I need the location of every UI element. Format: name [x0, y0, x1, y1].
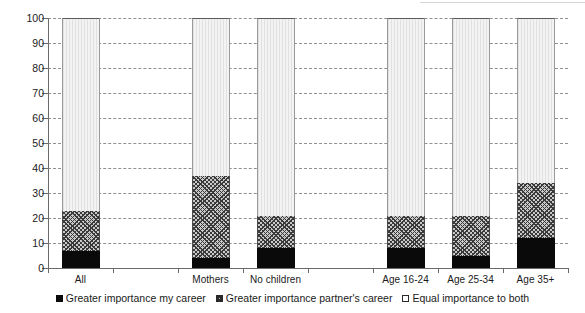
bar-segment-1: [387, 216, 425, 249]
x-axis-category-label: Age 16-24: [373, 274, 438, 285]
bar-segment-1: [257, 216, 295, 249]
x-axis-tick: [48, 268, 49, 273]
y-axis-tick-label: 30: [4, 188, 44, 198]
table-row: [387, 18, 425, 268]
x-axis-tick: [178, 268, 179, 273]
table-row: [452, 18, 490, 268]
bar-segment-1: [452, 216, 490, 256]
y-axis-tick-label: 70: [4, 88, 44, 98]
legend-swatch-icon: [56, 295, 63, 302]
legend-item: Greater importance my career: [56, 292, 206, 304]
y-axis-tick-label: 80: [4, 63, 44, 73]
gridline: [48, 93, 568, 94]
y-axis-tick-label: 10: [4, 238, 44, 248]
bar-segment-2: [452, 18, 490, 216]
legend-label: Equal importance to both: [412, 292, 529, 304]
bar-segment-1: [517, 183, 555, 238]
table-row: [257, 18, 295, 268]
gridline: [48, 168, 568, 169]
x-axis-tick: [308, 268, 309, 273]
bar-segment-0: [192, 258, 230, 268]
x-axis-tick: [113, 268, 114, 273]
stacked-bar-chart: 0102030405060708090100 AllMothersNo chil…: [0, 0, 585, 313]
y-axis-tick-label: 0: [4, 263, 44, 273]
x-axis-tick: [503, 268, 504, 273]
x-axis-tick: [373, 268, 374, 273]
x-axis-tick: [438, 268, 439, 273]
chart-legend: Greater importance my careerGreater impo…: [0, 292, 585, 304]
x-axis-category-label: Age 25-34: [438, 274, 503, 285]
table-row: [62, 18, 100, 268]
y-axis-tick-label: 20: [4, 213, 44, 223]
bar-segment-2: [192, 18, 230, 176]
legend-item: Equal importance to both: [402, 292, 529, 304]
gridline: [48, 193, 568, 194]
y-axis-tick-label: 50: [4, 138, 44, 148]
bar-segment-1: [62, 211, 100, 251]
x-axis-category-label: Age 35+: [503, 274, 568, 285]
legend-label: Greater importance partner's career: [226, 292, 393, 304]
x-axis-tick: [243, 268, 244, 273]
bar-segment-0: [62, 251, 100, 269]
gridline: [48, 68, 568, 69]
y-axis-tick-label: 90: [4, 38, 44, 48]
gridline: [48, 243, 568, 244]
gridline: [48, 143, 568, 144]
x-axis-tick: [568, 268, 569, 273]
gridline: [48, 218, 568, 219]
gridline: [48, 43, 568, 44]
bar-segment-2: [517, 18, 555, 183]
y-axis-tick-label: 100: [4, 13, 44, 23]
y-axis-tick-label: 60: [4, 113, 44, 123]
y-axis-tick-label: 40: [4, 163, 44, 173]
legend-swatch-icon: [402, 295, 409, 302]
bar-segment-2: [257, 18, 295, 216]
table-row: [517, 18, 555, 268]
bar-segment-0: [452, 256, 490, 269]
legend-label: Greater importance my career: [66, 292, 206, 304]
table-row: [192, 18, 230, 268]
bar-segment-1: [192, 176, 230, 259]
legend-item: Greater importance partner's career: [216, 292, 393, 304]
top-rule: [420, 2, 585, 3]
bar-segment-2: [387, 18, 425, 216]
x-axis-category-label: All: [48, 274, 113, 285]
bar-segment-0: [257, 248, 295, 268]
bar-segment-0: [387, 248, 425, 268]
x-axis-category-label: No children: [243, 274, 308, 285]
gridline: [48, 18, 568, 19]
bar-segment-0: [517, 238, 555, 268]
bar-segment-2: [62, 18, 100, 211]
legend-swatch-icon: [216, 295, 223, 302]
gridline: [48, 118, 568, 119]
x-axis-category-label: Mothers: [178, 274, 243, 285]
